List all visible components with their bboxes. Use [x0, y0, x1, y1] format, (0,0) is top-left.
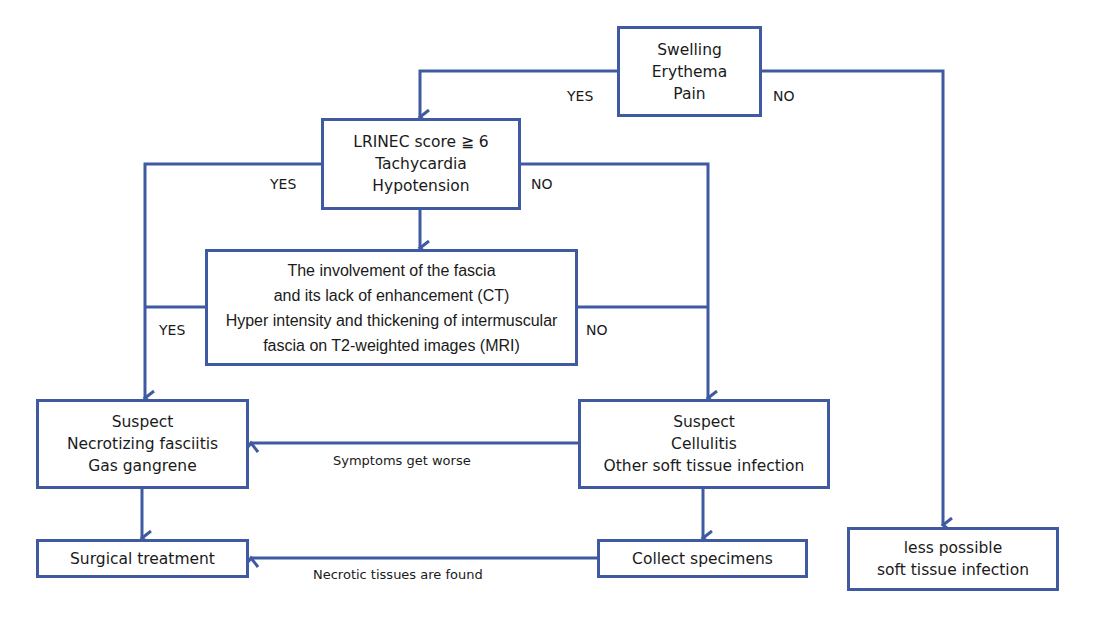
node-text: Suspect: [673, 411, 735, 433]
edge-label-imaging-yes: YES: [159, 322, 185, 338]
edge-label-lrinec-no: NO: [531, 176, 553, 192]
node-text: soft tissue infection: [877, 559, 1029, 581]
node-lrinec: LRINEC score ≧ 6 Tachycardia Hypotension: [321, 118, 521, 210]
node-text: Suspect: [112, 411, 174, 433]
flowchart: Swelling Erythema Pain LRINEC score ≧ 6 …: [0, 0, 1101, 620]
node-less-possible: less possible soft tissue infection: [847, 527, 1059, 591]
node-cellulitis: Suspect Cellulitis Other soft tissue inf…: [578, 399, 830, 489]
node-text: and its lack of enhancement (CT): [274, 283, 510, 308]
node-text: Hyper intensity and thickening of interm…: [226, 308, 558, 333]
node-specimens: Collect specimens: [597, 539, 808, 578]
edge-label-necrotic: Necrotic tissues are found: [313, 567, 483, 582]
edge-label-worse: Symptoms get worse: [333, 453, 471, 468]
node-text: Surgical treatment: [70, 548, 215, 570]
node-text: LRINEC score ≧ 6: [353, 131, 488, 153]
node-text: Tachycardia: [375, 153, 467, 175]
node-text: Hypotension: [372, 175, 469, 197]
node-text: Other soft tissue infection: [604, 455, 805, 477]
edge-label-lrinec-yes: YES: [270, 176, 296, 192]
node-text: Gas gangrene: [88, 455, 196, 477]
node-text: Swelling: [657, 39, 722, 61]
node-text: Collect specimens: [632, 548, 773, 570]
node-text: less possible: [904, 537, 1002, 559]
node-necrotizing: Suspect Necrotizing fasciitis Gas gangre…: [36, 399, 249, 489]
node-imaging: The involvement of the fascia and its la…: [205, 249, 578, 366]
node-text: The involvement of the fascia: [287, 258, 495, 283]
edge-label-imaging-no: NO: [586, 322, 608, 338]
node-text: fascia on T2-weighted images (MRI): [263, 333, 520, 358]
edge-label-symptoms-no: NO: [773, 88, 795, 104]
edge-label-symptoms-yes: YES: [567, 88, 593, 104]
node-text: Erythema: [652, 61, 727, 83]
node-text: Necrotizing fasciitis: [67, 433, 218, 455]
node-symptoms: Swelling Erythema Pain: [617, 26, 762, 117]
node-text: Pain: [673, 83, 705, 105]
node-surgical: Surgical treatment: [36, 539, 249, 578]
node-text: Cellulitis: [671, 433, 737, 455]
